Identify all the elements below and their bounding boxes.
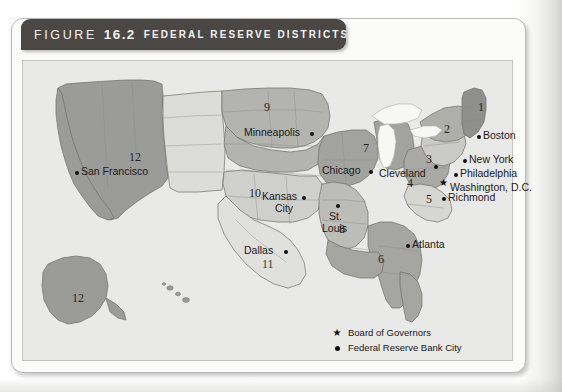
city-marker-san-francisco [75, 171, 79, 175]
district-number-6: 6 [378, 252, 384, 267]
legend-label-federal-reserve-bank-city: Federal Reserve Bank City [348, 342, 462, 353]
city-label-atlanta: Atlanta [412, 238, 445, 250]
city-label-richmond: Richmond [448, 191, 495, 203]
dot-icon [330, 342, 344, 353]
city-marker-washington-dc: ★ [439, 178, 448, 188]
district-number-5: 5 [426, 192, 432, 207]
alaska-district-12 [42, 256, 108, 324]
district-number-12-pacific: 12 [129, 150, 141, 165]
city-label-dallas: Dallas [244, 244, 273, 256]
page-bottom-shading [0, 378, 562, 392]
alaska-panhandle [106, 298, 126, 320]
district-number-2: 2 [444, 122, 450, 137]
district-8 [319, 182, 368, 250]
figure-page: FIGURE 16.2 FEDERAL RESERVE DISTRICTS [0, 0, 562, 392]
figure-title: FEDERAL RESERVE DISTRICTS [144, 29, 346, 40]
city-marker-dallas [284, 250, 288, 254]
city-marker-new-york [463, 159, 467, 163]
figure-label: FIGURE [34, 28, 97, 42]
city-marker-atlanta [406, 244, 410, 248]
city-marker-philadelphia [454, 173, 458, 177]
great-lakes [372, 104, 422, 124]
florida [400, 272, 422, 322]
city-label-minneapolis: Minneapolis [244, 126, 300, 138]
district-number-1: 1 [478, 100, 484, 115]
district-number-7: 7 [363, 141, 369, 156]
city-label-new-york: New York [469, 153, 513, 165]
city-label-st-louis-line1: St. [329, 210, 342, 222]
city-label-kansas-city-line1: Kansas [262, 190, 297, 202]
city-label-st-louis-line2: Louis [322, 222, 347, 234]
figure-header: FIGURE 16.2 FEDERAL RESERVE DISTRICTS [21, 19, 346, 50]
figure-number: 16.2 [104, 27, 136, 42]
city-label-chicago: Chicago [322, 164, 361, 176]
legend-label-board-of-governors: Board of Governors [348, 327, 431, 338]
district-10-west [163, 91, 225, 192]
city-marker-chicago [369, 170, 373, 174]
legend-item-board-of-governors: ★ Board of Governors [330, 327, 462, 338]
star-icon: ★ [330, 327, 344, 338]
city-marker-st-louis [336, 204, 340, 208]
city-marker-richmond [442, 197, 446, 201]
city-marker-kansas-city [302, 196, 306, 200]
district-number-3: 3 [426, 152, 432, 167]
city-label-philadelphia: Philadelphia [460, 167, 517, 179]
city-marker-boston [477, 135, 481, 139]
city-label-kansas-city-line2: City [275, 202, 293, 214]
federal-reserve-districts-map: 1 2 3 4 5 6 7 8 9 10 11 12 12 Boston New… [22, 60, 487, 332]
district-number-11: 11 [262, 257, 274, 272]
city-label-cleveland: Cleveland [379, 167, 426, 179]
hawaii [162, 283, 189, 303]
city-marker-cleveland [434, 165, 438, 169]
district-number-10: 10 [249, 186, 261, 201]
district-number-12-alaska: 12 [72, 291, 84, 306]
city-label-san-francisco: San Francisco [81, 165, 148, 177]
district-7 [318, 130, 378, 186]
city-label-boston: Boston [483, 129, 516, 141]
district-number-9: 9 [264, 100, 270, 115]
map-legend: ★ Board of Governors Federal Reserve Ban… [330, 327, 462, 357]
city-marker-minneapolis [310, 132, 314, 136]
legend-item-federal-reserve-bank-city: Federal Reserve Bank City [330, 342, 462, 353]
